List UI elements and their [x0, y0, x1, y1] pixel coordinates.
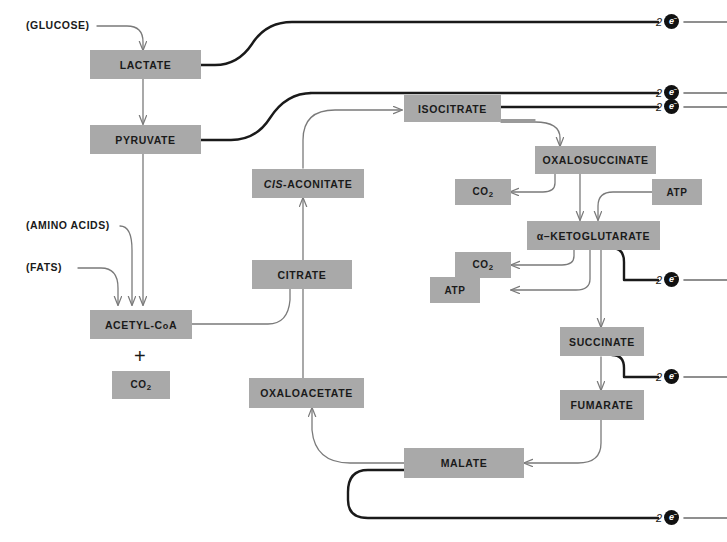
electron-chip-succinate: 2 e– — [656, 369, 679, 384]
node-co2-acetyl[interactable]: CO2 — [112, 371, 170, 399]
node-succinate[interactable]: SUCCINATE — [560, 327, 644, 356]
connector-isocitrate-to-oxalosuccinate — [501, 122, 560, 146]
node-oxaloacetate[interactable]: OXALOACETATE — [249, 378, 364, 408]
electron-count: 2 — [656, 512, 662, 524]
input-label-glucose: (GLUCOSE) — [26, 19, 89, 31]
electron-count: 2 — [656, 371, 662, 383]
node-alpha-ketoglutarate[interactable]: α–KETOGLUTARATE — [527, 221, 660, 250]
node-cis-aconitate-label: CIS-ACONITATE — [264, 178, 353, 190]
connector-atp-to-ketoglutarate — [598, 192, 652, 220]
electron-bead-icon: e– — [664, 272, 679, 287]
connector-layer — [0, 0, 727, 542]
node-atp-ketoglutarate[interactable]: ATP — [430, 277, 480, 303]
connector-cisaconitate-to-isocitrate — [303, 110, 402, 168]
node-citrate[interactable]: CITRATE — [252, 260, 352, 289]
node-cis-aconitate[interactable]: CIS-ACONITATE — [252, 169, 364, 198]
electron-bead-icon: e– — [664, 369, 679, 384]
plus-sign: + — [134, 346, 146, 366]
input-label-amino-acids: (AMINO ACIDS) — [26, 219, 110, 231]
electron-bead-icon: e– — [664, 14, 679, 29]
minus-charge: – — [674, 273, 677, 279]
minus-charge: – — [674, 15, 677, 21]
pathway-diagram: (GLUCOSE) (AMINO ACIDS) (FATS) LACTATE P… — [0, 0, 727, 542]
node-pyruvate[interactable]: PYRUVATE — [90, 125, 201, 154]
connector-oxalosuccinate-to-co2 — [510, 174, 555, 192]
electron-chip-ketoglutarate: 2 e– — [656, 272, 679, 287]
electron-chip-isocitrate: 2 e– — [656, 99, 679, 114]
minus-charge: – — [674, 370, 677, 376]
node-fumarate[interactable]: FUMARATE — [560, 390, 644, 420]
electron-chip-pyruvate: 2 e– — [656, 85, 679, 100]
electron-count: 2 — [656, 16, 662, 28]
node-co2-oxalosuccinate-label: CO2 — [472, 186, 493, 199]
node-co2-ketoglutarate[interactable]: CO2 — [455, 252, 511, 278]
connector-ketoglutarate-to-co2 — [511, 250, 574, 265]
minus-charge: – — [674, 511, 677, 517]
electron-bead-icon: e– — [664, 85, 679, 100]
node-acetyl-coa[interactable]: ACETYL-CoA — [90, 310, 192, 339]
electron-chip-malate: 2 e– — [656, 510, 679, 525]
connector-fats-to-acetylcoa — [78, 268, 118, 305]
node-co2-oxalosuccinate[interactable]: CO2 — [455, 179, 511, 205]
electron-line-succinate — [612, 355, 658, 377]
connector-malate-to-oxaloacetate — [312, 408, 404, 463]
connector-ketoglutarate-to-atp — [511, 250, 590, 290]
node-co2-acetyl-label: CO2 — [130, 379, 151, 392]
electron-line-ketoglutarate — [612, 248, 658, 280]
electron-chip-lactate: 2 e– — [656, 14, 679, 29]
connector-glucose-to-lactate — [97, 26, 143, 50]
minus-charge: – — [674, 86, 677, 92]
electron-bead-icon: e– — [664, 510, 679, 525]
node-isocitrate[interactable]: ISOCITRATE — [404, 95, 501, 122]
electron-count: 2 — [656, 87, 662, 99]
electron-line-lactate — [201, 22, 658, 65]
node-oxalosuccinate[interactable]: OXALOSUCCINATE — [535, 146, 656, 174]
connector-fumarate-to-malate — [524, 420, 601, 463]
input-label-fats: (FATS) — [26, 261, 62, 273]
node-atp-oxalosuccinate[interactable]: ATP — [652, 179, 702, 205]
node-malate[interactable]: MALATE — [404, 448, 524, 478]
node-co2-ketoglutarate-label: CO2 — [472, 259, 493, 272]
node-lactate[interactable]: LACTATE — [90, 50, 201, 79]
electron-bead-icon: e– — [664, 99, 679, 114]
electron-count: 2 — [656, 274, 662, 286]
electron-count: 2 — [656, 101, 662, 113]
connector-aminoacids-to-acetylcoa — [120, 226, 132, 305]
node-acetyl-coa-label: ACETYL-CoA — [105, 319, 177, 331]
minus-charge: – — [674, 100, 677, 106]
